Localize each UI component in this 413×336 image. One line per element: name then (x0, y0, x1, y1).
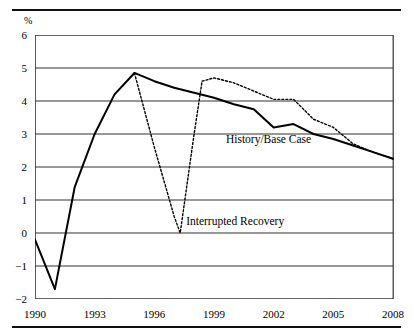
y-tick-label: 0 (5, 228, 27, 239)
y-tick-label: 4 (5, 96, 27, 107)
y-tick-label: −1 (5, 261, 27, 272)
plot-svg (35, 35, 394, 299)
y-tick-label: 6 (5, 30, 27, 41)
x-tick-label: 1990 (12, 309, 58, 320)
y-tick-label: 3 (5, 129, 27, 140)
chart-figure: % 6543210−1−2 19901993199619992002200520… (0, 0, 413, 336)
y-tick-label: 1 (5, 195, 27, 206)
series-annotation-label: Interrupted Recovery (186, 215, 284, 227)
x-tick-label: 2008 (370, 309, 413, 320)
gridlines (35, 35, 393, 299)
x-tick-label: 1996 (131, 309, 177, 320)
y-tick-label: 2 (5, 162, 27, 173)
y-tick-label: −2 (5, 294, 27, 305)
series-annotation-label: History/Base Case (226, 133, 311, 145)
series-line-history-base-case (35, 73, 393, 289)
y-axis-unit-label: % (24, 16, 32, 26)
top-horizontal-rule (12, 9, 401, 11)
x-tick-label: 2005 (310, 309, 356, 320)
x-tick-label: 1993 (72, 309, 118, 320)
x-tick-label: 2002 (251, 309, 297, 320)
series-line-interrupted-recovery (134, 73, 393, 233)
bottom-horizontal-rule (12, 326, 401, 328)
x-tick-label: 1999 (191, 309, 237, 320)
y-tick-label: 5 (5, 63, 27, 74)
plot-area (35, 35, 394, 299)
